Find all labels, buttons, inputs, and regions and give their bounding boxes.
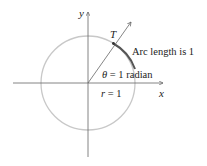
radius-equals: =	[108, 88, 114, 99]
radius-value: 1	[116, 88, 121, 99]
unit-circle-diagram: y x T Arc length is 1 θ = 1 radian r = 1	[0, 0, 207, 166]
angle-label: θ = 1 radian	[102, 69, 153, 80]
radius-label: r = 1	[101, 88, 122, 99]
angle-value: 1	[118, 69, 123, 80]
theta-symbol: θ	[102, 69, 107, 80]
r-symbol: r	[101, 88, 106, 99]
y-axis-label: y	[78, 7, 84, 19]
angle-equals: =	[110, 69, 116, 80]
arc-length-label: Arc length is 1	[132, 46, 194, 57]
point-t	[112, 42, 115, 45]
angle-unit: radian	[126, 69, 153, 80]
point-t-label: T	[110, 28, 117, 40]
x-axis-label: x	[158, 87, 164, 99]
